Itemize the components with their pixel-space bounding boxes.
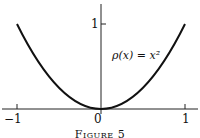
x-tick-label-zero: 0 [94,113,102,125]
x-tick-label-pos1: 1 [182,113,190,125]
y-tick-label-1: 1 [91,18,99,30]
figure-caption: Figure 5 [0,128,200,138]
equation-label: ρ(x) = x² [112,49,160,62]
x-tick-label-neg1: −1 [4,113,22,125]
